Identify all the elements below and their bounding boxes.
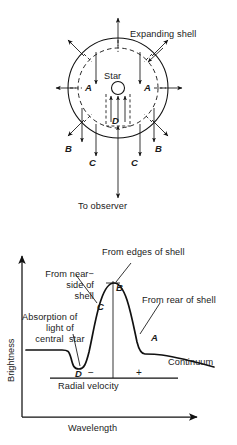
chart-point-a-label: A [151,333,158,343]
from-near-side-line1: From near− [18,270,94,280]
region-d-label: D [112,116,119,126]
chart-point-d-label: D [75,369,82,379]
x-axis-label: Wavelength [68,424,117,434]
absorption-line2: light of [22,324,98,334]
from-edges-of-shell-label: From edges of shell [102,248,185,258]
from-near-side-line3: shell [18,292,94,302]
region-c-left-label: C [89,158,96,168]
radial-velocity-axis-label: Radial velocity [58,382,119,392]
y-axis-label: Brightness [6,339,16,382]
region-b-left-label: B [65,144,72,154]
expanding-shell-label: Expanding shell [130,30,196,40]
central-star [112,82,125,95]
region-c-right-label: C [131,158,138,168]
rear-of-shell-leader [140,303,160,334]
from-rear-of-shell-label: From rear of shell [142,296,216,306]
region-b-right-label: B [155,144,162,154]
negative-velocity-sign: − [88,368,94,379]
positive-velocity-sign: + [136,368,142,379]
continuum-label: Continuum [168,358,213,368]
from-near-side-line2: side of [18,281,94,291]
chart-point-c-label: C [97,302,104,312]
p-cygni-figure: Expanding shell Star A A D B B C C To ob… [0,0,237,445]
chart-point-b-label: B [116,283,123,293]
to-observer-label: To observer [78,202,127,212]
absorption-line3: central star [18,335,102,345]
region-a-right-label: A [144,83,151,93]
absorption-line1: Absorption of [22,313,77,323]
region-a-left-label: A [85,83,92,93]
star-label: Star [104,72,121,82]
edges-of-shell-leader [116,263,131,282]
